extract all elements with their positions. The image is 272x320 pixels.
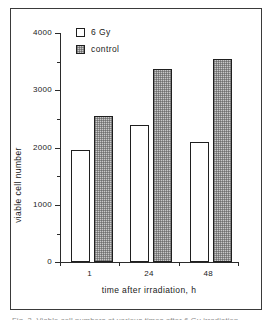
- y-minor-tick-2500: [57, 119, 61, 120]
- x-tick-label-48: 48: [193, 269, 223, 278]
- y-minor-tick-1500: [57, 176, 61, 177]
- legend-swatch-6gy-icon: [76, 28, 85, 37]
- legend-item-6gy[interactable]: 6 Gy: [76, 25, 119, 39]
- y-axis-title: viable cell number: [13, 130, 23, 240]
- x-tick-start: [60, 262, 61, 267]
- bar-control-48[interactable]: [213, 59, 232, 262]
- x-axis-title: time after irradiation, h: [60, 285, 238, 295]
- y-tick-label-0: 0: [12, 258, 52, 266]
- legend-label-control: control: [91, 44, 119, 54]
- chart-legend: 6 Gy control: [76, 25, 119, 59]
- y-tick-label-4000: 4000: [12, 29, 52, 37]
- y-tick-1000: [55, 205, 60, 206]
- x-tick-end: [238, 262, 239, 267]
- y-tick-3000: [55, 90, 60, 91]
- figure-caption: Fig. 2. Viable cell numbers at various t…: [12, 316, 262, 320]
- figure-container: 4000 3000 2000 1000 0 1 24 48 time after: [0, 0, 272, 320]
- y-minor-tick-500: [57, 234, 61, 235]
- legend-item-control[interactable]: control: [76, 42, 119, 56]
- x-tick-div-1: [119, 262, 120, 267]
- y-minor-tick-3500: [57, 62, 61, 63]
- bar-chart-plot-area: 4000 3000 2000 1000 0 1 24 48 time after: [0, 0, 272, 320]
- y-axis-line: [60, 33, 61, 263]
- bar-6gy-24[interactable]: [130, 125, 149, 262]
- bar-control-1[interactable]: [94, 116, 113, 262]
- y-tick-2000: [55, 148, 60, 149]
- x-tick-label-1: 1: [75, 269, 105, 278]
- bar-6gy-48[interactable]: [190, 142, 209, 262]
- legend-label-6gy: 6 Gy: [91, 27, 111, 37]
- x-tick-div-2: [179, 262, 180, 267]
- y-tick-4000: [55, 33, 60, 34]
- x-tick-label-24: 24: [134, 269, 164, 278]
- bar-control-24[interactable]: [153, 69, 172, 263]
- legend-swatch-control-icon: [76, 45, 85, 54]
- y-tick-label-3000: 3000: [12, 86, 52, 94]
- bar-6gy-1[interactable]: [71, 150, 90, 262]
